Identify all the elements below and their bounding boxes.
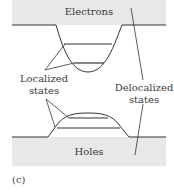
label-delocalized-2: states: [129, 94, 159, 105]
label-localized-2: states: [29, 85, 59, 96]
band-label-electrons: Electrons: [65, 6, 113, 17]
band-label-holes: Holes: [75, 146, 104, 157]
panel-label: (c): [12, 174, 26, 185]
conduction-band-edge: [12, 25, 166, 72]
valence-band-edge: [12, 113, 166, 137]
label-localized-1: Localized: [20, 73, 69, 84]
label-delocalized-1: Delocalized: [115, 82, 174, 93]
energy-band-diagram: Electrons Holes Localized states Delocal…: [0, 0, 174, 194]
